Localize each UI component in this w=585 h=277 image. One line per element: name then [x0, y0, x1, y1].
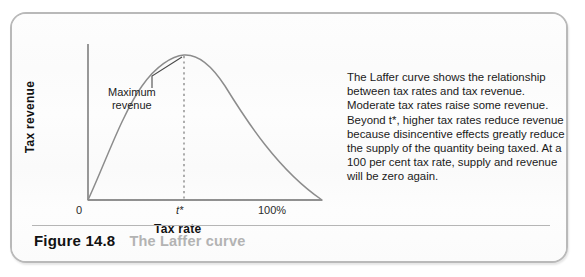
caption-figure-title: The Laffer curve: [129, 233, 245, 249]
max-revenue-annotation-line1: Maximum: [108, 86, 156, 99]
laffer-curve-plot: 0 t* 100% Tax rate Tax revenue Maximum r…: [30, 24, 335, 224]
figure-frame: 0 t* 100% Tax rate Tax revenue Maximum r…: [10, 12, 568, 263]
figure-description: The Laffer curve shows the relationship …: [347, 70, 565, 184]
y-axis-title: Tax revenue: [23, 81, 37, 153]
x-tick-label-0: 0: [76, 204, 82, 216]
laffer-curve-path: [88, 55, 322, 200]
figure-description-text: The Laffer curve shows the relationship …: [347, 70, 565, 184]
figure-root: 0 t* 100% Tax rate Tax revenue Maximum r…: [0, 0, 585, 277]
caption-divider: [32, 225, 550, 226]
max-revenue-annotation-line2: revenue: [108, 99, 156, 112]
laffer-curve-svg: [30, 24, 335, 224]
caption-figure-number: Figure 14.8: [34, 232, 115, 249]
caption: Figure 14.8 The Laffer curve: [34, 232, 245, 249]
max-revenue-annotation: Maximum revenue: [108, 86, 156, 112]
x-tick-label-100-percent: 100%: [258, 204, 286, 216]
x-tick-label-tstar: t*: [176, 204, 183, 216]
